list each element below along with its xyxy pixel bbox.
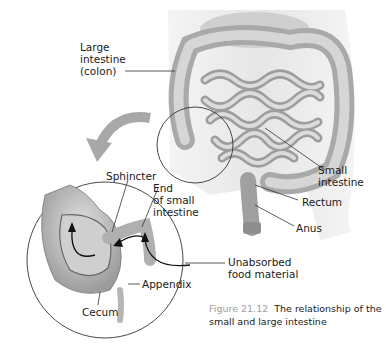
figure-caption: Figure 21.12The relationship of the smal…	[209, 302, 384, 328]
label-unabsorbed-food: Unabsorbed food material	[228, 256, 298, 280]
label-end-of-small-intestine: End of small intestine	[153, 182, 199, 218]
label-rectum: Rectum	[302, 196, 342, 208]
label-anus: Anus	[296, 222, 322, 234]
label-small-intestine: Small intestine	[318, 164, 364, 188]
label-sphincter: Sphincter	[106, 170, 156, 182]
label-cecum: Cecum	[82, 306, 118, 318]
diagram-stage: Large intestine (colon) Small intestine …	[0, 0, 386, 350]
rectum	[248, 180, 252, 228]
label-appendix: Appendix	[142, 278, 191, 290]
figure-number: Figure 21.12	[209, 303, 268, 314]
label-large-intestine: Large intestine (colon)	[80, 41, 126, 77]
callout-arrow	[100, 117, 150, 145]
